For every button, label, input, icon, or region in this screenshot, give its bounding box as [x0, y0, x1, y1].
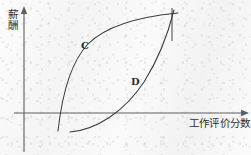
y-axis-arrow-icon	[21, 6, 27, 14]
y-axis-label: 薪酬	[6, 9, 19, 31]
x-axis-label: 工作评价分数	[189, 118, 250, 129]
curve-label-d: D	[131, 77, 140, 87]
x-axis-arrow-icon	[241, 110, 249, 116]
figure-canvas: 薪酬 工作评价分数 C D	[0, 0, 251, 155]
curve-d-path	[70, 10, 174, 132]
curve-label-c: C	[81, 41, 89, 51]
plot-svg	[0, 0, 251, 155]
